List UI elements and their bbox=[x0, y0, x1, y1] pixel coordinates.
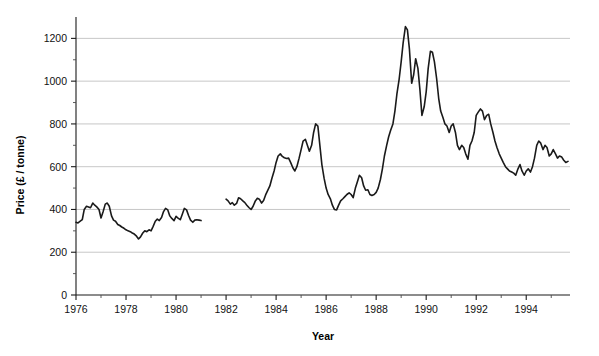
x-tick-label-1978: 1978 bbox=[114, 303, 138, 315]
x-tick-label-1988: 1988 bbox=[364, 303, 388, 315]
y-tick-labels-group: 020040060080010001200 bbox=[44, 32, 68, 301]
y-tick-label-1000: 1000 bbox=[44, 75, 68, 87]
x-tick-label-1990: 1990 bbox=[414, 303, 438, 315]
x-tick-label-1982: 1982 bbox=[214, 303, 238, 315]
chart-figure: 020040060080010001200 197619781980198219… bbox=[0, 0, 599, 356]
y-tick-label-1200: 1200 bbox=[44, 32, 68, 44]
x-tick-label-1986: 1986 bbox=[314, 303, 338, 315]
x-tick-label-1980: 1980 bbox=[164, 303, 188, 315]
axes-group bbox=[76, 17, 570, 295]
x-tick-label-1992: 1992 bbox=[465, 303, 489, 315]
x-tick-labels-group: 1976197819801982198419861988199019921994 bbox=[64, 303, 538, 315]
y-axis-title: Price (£ / tonne) bbox=[14, 136, 26, 215]
y-tick-label-400: 400 bbox=[49, 203, 67, 215]
series-line-1 bbox=[76, 203, 201, 239]
y-tick-label-200: 200 bbox=[49, 246, 67, 258]
y-tick-label-800: 800 bbox=[49, 118, 67, 130]
ticks-group bbox=[71, 38, 551, 300]
y-tick-label-0: 0 bbox=[61, 289, 67, 301]
price-line-chart: 020040060080010001200 197619781980198219… bbox=[0, 0, 599, 356]
y-tick-label-600: 600 bbox=[49, 161, 67, 173]
series-group bbox=[76, 27, 568, 239]
x-tick-label-1984: 1984 bbox=[264, 303, 288, 315]
x-axis-title: Year bbox=[312, 330, 334, 342]
x-tick-label-1976: 1976 bbox=[64, 303, 88, 315]
series-line-2 bbox=[226, 27, 568, 210]
x-tick-label-1994: 1994 bbox=[515, 303, 539, 315]
